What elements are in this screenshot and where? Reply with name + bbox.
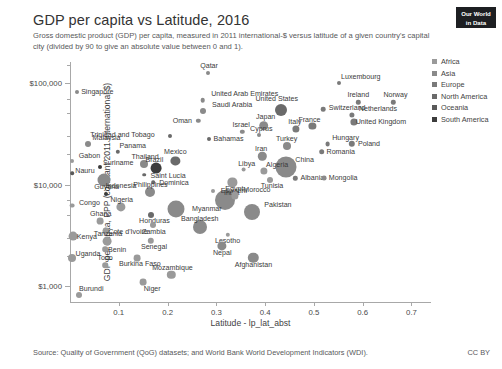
scatter-point[interactable] bbox=[349, 113, 354, 118]
scatter-point[interactable] bbox=[319, 149, 325, 155]
scatter-point[interactable] bbox=[70, 159, 74, 163]
scatter-point-label: Norway bbox=[383, 91, 407, 99]
scatter-point-label: Mozambique bbox=[152, 264, 193, 272]
scatter-point[interactable] bbox=[70, 203, 75, 208]
legend-item[interactable]: Africa bbox=[432, 57, 488, 66]
scatter-point-label: Malaysia bbox=[93, 134, 121, 142]
scatter-point-label: Morocco bbox=[243, 186, 270, 194]
legend-swatch bbox=[432, 105, 437, 110]
legend-item[interactable]: North America bbox=[432, 92, 488, 101]
scatter-point-label: Nauru bbox=[75, 167, 94, 175]
scatter-point[interactable] bbox=[211, 189, 215, 193]
scatter-point-label: Romania bbox=[327, 148, 355, 156]
scatter-point[interactable] bbox=[257, 133, 261, 137]
scatter-point-label: Poland bbox=[358, 140, 380, 148]
y-axis-minor-tick bbox=[67, 154, 70, 155]
scatter-point-label: Nepal bbox=[213, 249, 232, 257]
scatter-point[interactable] bbox=[349, 141, 355, 147]
scatter-point[interactable] bbox=[85, 141, 91, 147]
scatter-point-label: Israel bbox=[233, 121, 250, 129]
scatter-point-label: Turkey bbox=[276, 135, 297, 143]
scatter-point[interactable] bbox=[75, 90, 79, 94]
scatter-point[interactable] bbox=[241, 167, 246, 172]
x-axis-tick-label: 0.6 bbox=[357, 308, 368, 317]
x-axis-tick-label: 0.7 bbox=[406, 308, 417, 317]
scatter-point[interactable] bbox=[196, 119, 200, 123]
scatter-point[interactable] bbox=[142, 173, 146, 177]
license-note: CC BY bbox=[467, 348, 490, 357]
legend-item[interactable]: Europe bbox=[432, 80, 488, 89]
chart-subtitle: Gross domestic product (GDP) per capita,… bbox=[33, 31, 433, 52]
scatter-point[interactable] bbox=[167, 270, 175, 278]
scatter-point[interactable] bbox=[292, 126, 299, 133]
y-axis-minor-tick bbox=[67, 200, 70, 201]
scatter-point-label: Bangladesh bbox=[181, 215, 218, 223]
scatter-point[interactable] bbox=[240, 130, 244, 134]
scatter-point[interactable] bbox=[200, 108, 206, 114]
y-axis-tick-label: $1,000 bbox=[38, 282, 62, 291]
scatter-point[interactable] bbox=[116, 150, 120, 154]
x-axis-tick-label: 0.2 bbox=[162, 308, 173, 317]
scatter-point-label: Suriname bbox=[103, 159, 133, 167]
scatter-point-label: Togo bbox=[97, 254, 112, 262]
scatter-point[interactable] bbox=[321, 107, 326, 112]
scatter-point-label: Congo bbox=[79, 199, 100, 207]
legend-item[interactable]: Asia bbox=[432, 69, 488, 78]
scatter-point-label: Senegal bbox=[141, 243, 167, 251]
legend-swatch bbox=[432, 59, 437, 64]
scatter-point[interactable] bbox=[244, 204, 260, 220]
legend-swatch bbox=[432, 82, 437, 87]
scatter-point[interactable] bbox=[293, 176, 297, 180]
scatter-point-label: Japan bbox=[256, 113, 275, 121]
scatter-point[interactable] bbox=[96, 217, 103, 224]
scatter-point[interactable] bbox=[283, 142, 291, 150]
scatter-point-label: Gabon bbox=[79, 152, 100, 160]
scatter-point[interactable] bbox=[275, 104, 287, 116]
scatter-point[interactable] bbox=[322, 176, 327, 181]
scatter-point-label: Myanmar bbox=[192, 205, 222, 213]
scatter-point[interactable] bbox=[168, 134, 172, 138]
scatter-point[interactable] bbox=[325, 142, 330, 147]
y-axis-minor-tick bbox=[67, 136, 70, 137]
legend-swatch bbox=[432, 71, 437, 76]
scatter-point-label: Afghanistan bbox=[235, 261, 272, 269]
scatter-point[interactable] bbox=[206, 71, 210, 75]
scatter-point-label: Brazil bbox=[145, 156, 163, 164]
scatter-point[interactable] bbox=[102, 263, 108, 269]
scatter-point[interactable] bbox=[104, 192, 108, 196]
scatter-point[interactable] bbox=[200, 98, 205, 103]
scatter-point-label: Libya bbox=[238, 160, 255, 168]
scatter-point-label: Mexico bbox=[164, 148, 186, 156]
scatter-point-label: Hungary bbox=[332, 134, 359, 142]
scatter-point[interactable] bbox=[231, 192, 238, 199]
y-axis-minor-tick bbox=[67, 113, 70, 114]
plot-area: $1,000$10,000$100,0000.10.20.30.40.50.60… bbox=[70, 62, 431, 302]
scatter-point-label: Netherlands bbox=[359, 105, 397, 113]
scatter-point-label: Oman bbox=[173, 117, 192, 125]
scatter-point-label: Ireland bbox=[347, 91, 369, 99]
legend-label: Europe bbox=[441, 80, 465, 89]
scatter-point[interactable] bbox=[391, 100, 395, 104]
legend-label: North America bbox=[441, 92, 487, 101]
x-axis-tick-label: 0.3 bbox=[211, 308, 222, 317]
x-axis-tick bbox=[168, 302, 169, 306]
scatter-point[interactable] bbox=[70, 171, 74, 175]
scatter-point-label: United States bbox=[255, 95, 298, 103]
scatter-point[interactable] bbox=[98, 165, 102, 169]
scatter-point-label: Mongolia bbox=[329, 174, 358, 182]
y-axis-minor-tick bbox=[67, 65, 70, 66]
legend-item[interactable]: South America bbox=[432, 115, 488, 124]
scatter-point[interactable] bbox=[171, 156, 180, 165]
x-axis-tick bbox=[216, 302, 217, 306]
scatter-point-label: France bbox=[298, 116, 320, 124]
scatter-point-label: Saudi Arabia bbox=[212, 101, 252, 109]
scatter-point[interactable] bbox=[337, 81, 341, 85]
y-axis-line bbox=[70, 62, 71, 302]
legend-item[interactable]: Oceania bbox=[432, 103, 488, 112]
scatter-point-label: United Kingdom bbox=[356, 118, 406, 126]
scatter-point[interactable] bbox=[207, 137, 211, 141]
page-title: GDP per capita vs Latitude, 2016 bbox=[33, 12, 250, 28]
y-axis-tick bbox=[65, 83, 70, 84]
scatter-point[interactable] bbox=[258, 152, 266, 160]
scatter-point-label: Nigeria bbox=[110, 196, 132, 204]
